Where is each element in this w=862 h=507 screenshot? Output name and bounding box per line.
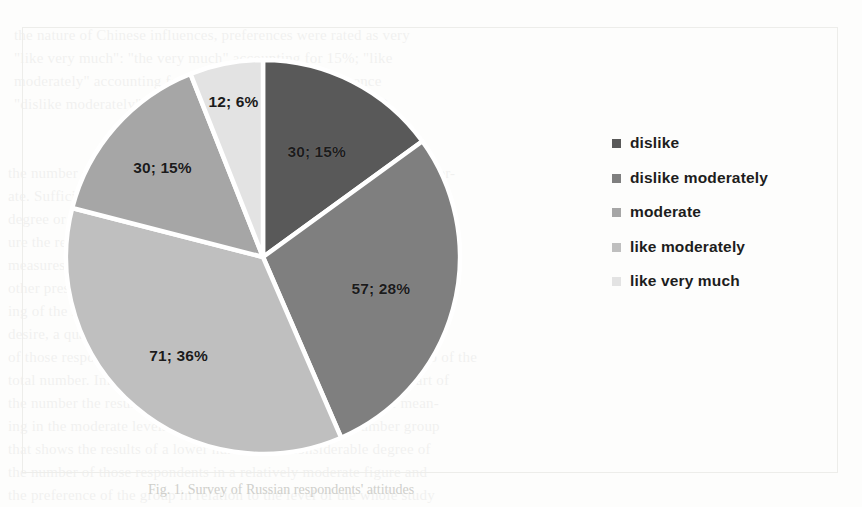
legend-item-like-very-much[interactable]: like very much: [612, 264, 768, 299]
pie-slice-label: 71; 36%: [149, 347, 207, 365]
legend-item-moderate[interactable]: moderate: [612, 195, 768, 230]
pie-slice-label: 57; 28%: [352, 280, 410, 298]
pie-chart-svg: [63, 57, 463, 457]
legend-item-label: dislike: [630, 134, 679, 152]
legend-item-label: moderate: [630, 203, 701, 221]
legend-item-like-moderately[interactable]: like moderately: [612, 230, 768, 265]
legend-item-dislike[interactable]: dislike: [612, 126, 768, 161]
legend-item-label: like moderately: [630, 238, 745, 256]
legend-item-dislike-moderately[interactable]: dislike moderately: [612, 161, 768, 196]
legend-swatch-icon: [612, 174, 621, 183]
legend-swatch-icon: [612, 277, 621, 286]
pie-slice-label: 30; 15%: [133, 159, 191, 177]
pie-slice-label: 30; 15%: [287, 143, 345, 161]
chart-legend: dislikedislike moderatelymoderatelike mo…: [612, 126, 768, 299]
legend-swatch-icon: [612, 139, 621, 148]
legend-item-label: like very much: [630, 272, 740, 290]
pie-chart: 30; 15%57; 28%71; 36%30; 15%12; 6%: [63, 57, 463, 457]
legend-swatch-icon: [612, 243, 621, 252]
legend-swatch-icon: [612, 208, 621, 217]
pie-slice-label: 12; 6%: [209, 93, 259, 111]
figure-caption: Fig. 1. Survey of Russian respondents' a…: [148, 482, 414, 498]
legend-item-label: dislike moderately: [630, 169, 768, 187]
